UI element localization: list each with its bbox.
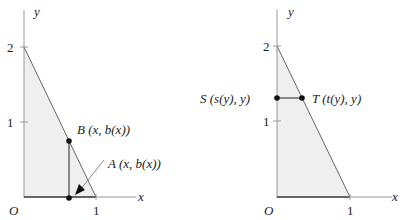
right-x-axis-label: x (391, 189, 398, 204)
point-s (274, 95, 280, 101)
left-y-tick-2: 2 (7, 40, 14, 55)
left-y-tick-1: 1 (7, 115, 14, 130)
point-a (66, 195, 72, 201)
point-s-label: S (s(y), y) (200, 91, 250, 106)
point-b-label: B (x, b(x)) (77, 122, 130, 137)
left-x-axis-label: x (137, 189, 144, 204)
right-panel: y x O 2 1 1 S (s(y), y) T (t(y), y) (200, 4, 398, 218)
left-y-axis-label: y (32, 4, 40, 19)
right-y-tick-1: 1 (263, 114, 270, 129)
left-origin-label: O (9, 203, 19, 218)
right-y-axis-label: y (286, 4, 294, 19)
point-t (299, 95, 305, 101)
diagram-canvas: y x O 2 1 1 B (x, b(x)) A (x, b(x)) y x … (0, 0, 404, 220)
point-b (66, 138, 72, 144)
right-x-tick-1: 1 (347, 203, 354, 218)
left-panel: y x O 2 1 1 B (x, b(x)) A (x, b(x)) (7, 4, 161, 218)
point-a-label: A (x, b(x)) (107, 156, 161, 171)
point-t-label: T (t(y), y) (312, 91, 361, 106)
left-x-tick-1: 1 (93, 203, 100, 218)
right-origin-label: O (264, 203, 274, 218)
right-y-tick-2: 2 (263, 39, 270, 54)
